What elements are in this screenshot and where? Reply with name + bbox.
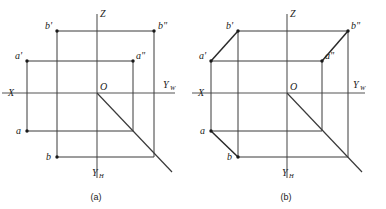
panel-b-label-origin: O bbox=[290, 81, 297, 92]
panel-a-diagonal-45 bbox=[97, 93, 172, 172]
panel-b-label-a: a bbox=[200, 125, 205, 136]
panel-a-point-a-prime bbox=[25, 59, 28, 62]
panel-b-oblique-aprime-bprime bbox=[211, 31, 238, 61]
panel-b-point-b bbox=[236, 155, 239, 158]
panel-a-label-yw-subscript: W bbox=[170, 84, 176, 91]
panel-b-label-yw-subscript: W bbox=[360, 84, 366, 91]
panel-a-label-b-double-prime: b" bbox=[158, 20, 168, 31]
panel-a-caption: (a) bbox=[91, 192, 102, 202]
panel-a-label-a-prime: a' bbox=[15, 50, 23, 61]
panel-a-label-b: b bbox=[46, 151, 51, 162]
panel-a-label-a: a bbox=[16, 125, 21, 136]
figure-root: X Y W Z Y H O b' b" a' a" a b (a) bbox=[0, 0, 386, 209]
panel-b-label-b-double-prime: b" bbox=[351, 20, 361, 31]
panel-b-label-yh-axis: Y bbox=[282, 167, 289, 178]
panel-a-point-b-prime bbox=[55, 29, 58, 32]
panel-a-label-yh-axis: Y bbox=[92, 167, 99, 178]
panel-a-point-b bbox=[55, 155, 58, 158]
panel-a-point-a-double-prime bbox=[131, 59, 134, 62]
panel-b-label-b-prime: b' bbox=[226, 20, 234, 31]
panel-b-label-z-axis: Z bbox=[290, 8, 296, 19]
panel-b-label-a-prime: a' bbox=[199, 50, 207, 61]
panel-b-point-a-prime bbox=[209, 59, 212, 62]
panel-b-label-b: b bbox=[227, 151, 232, 162]
panel-a: X Y W Z Y H O b' b" a' a" a b (a) bbox=[2, 8, 176, 202]
panel-b-label-yw-axis: Y bbox=[353, 79, 360, 90]
panel-a-label-a-double-prime: a" bbox=[136, 50, 146, 61]
panel-b-label-a-double-prime: a" bbox=[325, 50, 335, 61]
panel-b-caption: (b) bbox=[281, 192, 292, 202]
panel-a-label-yh-subscript: H bbox=[98, 172, 104, 179]
panel-b: X Y W Z Y H O b' b" a' a" a b (b) bbox=[192, 8, 366, 202]
panel-b-label-yh-subscript: H bbox=[288, 172, 294, 179]
panel-a-label-x-axis: X bbox=[7, 87, 15, 98]
panel-b-oblique-a-b bbox=[211, 131, 238, 157]
panel-a-point-b-double-prime bbox=[152, 29, 155, 32]
panel-b-point-a bbox=[209, 129, 212, 132]
panel-b-point-b-prime bbox=[236, 29, 239, 32]
projection-figure: X Y W Z Y H O b' b" a' a" a b (a) bbox=[0, 0, 386, 209]
panel-a-point-a bbox=[25, 129, 28, 132]
panel-a-label-z-axis: Z bbox=[100, 8, 106, 19]
panel-a-label-origin: O bbox=[100, 81, 107, 92]
panel-a-label-b-prime: b' bbox=[45, 20, 53, 31]
panel-b-diagonal-45 bbox=[287, 93, 362, 172]
panel-b-point-b-double-prime bbox=[346, 29, 349, 32]
panel-b-point-a-double-prime bbox=[320, 59, 323, 62]
panel-a-label-yw-axis: Y bbox=[163, 79, 170, 90]
panel-b-label-x-axis: X bbox=[197, 87, 205, 98]
